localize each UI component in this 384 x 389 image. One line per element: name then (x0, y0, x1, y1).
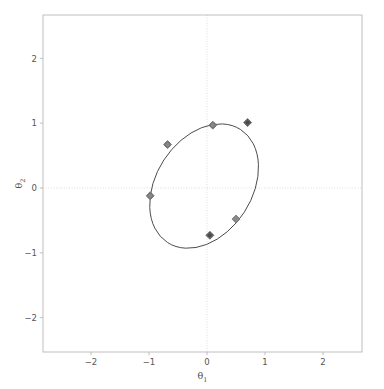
x-tick-label: 2 (320, 357, 325, 367)
x-axis-title-subscript: 1 (203, 376, 207, 384)
x-tick-label: 1 (262, 357, 267, 367)
x-tick-label: −2 (85, 357, 98, 367)
y-tick-label: −2 (24, 313, 37, 323)
scatter-plot: −2−1012 −2−1012 θ1 θ2 (0, 0, 384, 389)
x-tick-label: 0 (204, 357, 209, 367)
x-tick-label: −1 (143, 357, 156, 367)
y-tick-label: 2 (32, 54, 37, 64)
y-tick-label: −1 (24, 248, 37, 258)
y-axis-title-subscript: 2 (19, 179, 27, 183)
figure-canvas: −2−1012 −2−1012 θ1 θ2 (0, 0, 384, 389)
y-tick-label: 0 (32, 183, 37, 193)
y-tick-label: 1 (32, 118, 37, 128)
figure-background (0, 0, 384, 389)
